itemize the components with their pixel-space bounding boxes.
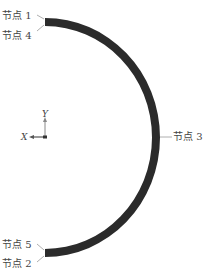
x-axis-label: X bbox=[21, 132, 27, 142]
y-axis-label: Y bbox=[42, 109, 48, 119]
node1-label: 节点 1 bbox=[2, 10, 32, 22]
node5-label: 节点 5 bbox=[2, 239, 32, 251]
axis-triad bbox=[29, 117, 47, 139]
node2-label: 节点 2 bbox=[2, 258, 32, 270]
node3-label: 节点 3 bbox=[173, 131, 203, 143]
leader-lines bbox=[37, 15, 172, 262]
node4-label: 节点 4 bbox=[2, 30, 32, 42]
semicircular-arc bbox=[45, 18, 160, 257]
